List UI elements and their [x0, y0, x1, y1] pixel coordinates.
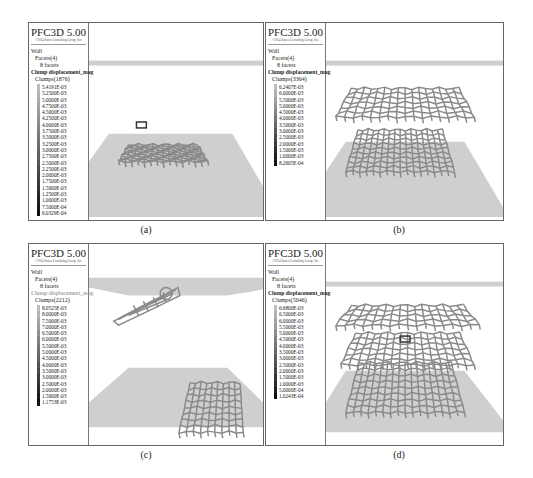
panel-c: PFC3D 5.00 ©2014 Itasca Consulting Group…	[28, 243, 264, 446]
top-wall-plane	[89, 278, 263, 296]
mesh-render-a	[89, 23, 263, 220]
facets-label: Facets(4)	[268, 276, 323, 283]
facets-sub: 8 facets	[31, 62, 86, 69]
bottom-wall-plane	[326, 371, 503, 432]
facets-label: Facets(4)	[31, 276, 86, 283]
scale-value: 6.0329E-04	[42, 210, 66, 216]
mesh-render-c	[89, 244, 263, 445]
scale-value: 1.1753E-03	[42, 399, 66, 405]
scale-entry: 1.0243E-04	[274, 393, 323, 399]
clumps-label: Clumps(3364)	[268, 76, 323, 83]
scale-entry: 6.0329E-04	[37, 210, 86, 216]
clumps-label: Clumps(2212)	[31, 297, 86, 304]
legend-title: PFC3D 5.00	[268, 247, 323, 259]
color-scale: 5.4191E-035.2500E-035.0000E-034.7500E-03…	[37, 84, 86, 216]
clumps-label: Clumps(1876)	[31, 76, 86, 83]
legend-copyright: ©2014 Itasca Consulting Group, Inc.	[31, 38, 86, 45]
mesh-render-b	[326, 23, 503, 220]
scale-value: 8.2605E-04	[279, 160, 303, 166]
contour-label: Clump displacement_mag	[31, 69, 86, 76]
legend-copyright: ©2014 Itasca Consulting Group, Inc.	[268, 259, 323, 266]
scale-swatch	[274, 160, 277, 166]
clumps-label: Clumps(5046)	[268, 297, 323, 304]
color-scale: 6.2407E-036.0000E-035.5000E-035.0000E-03…	[274, 84, 323, 166]
wall-label: Wall	[268, 48, 323, 55]
legend-d: PFC3D 5.00 ©2014 Itasca Consulting Group…	[266, 244, 326, 445]
top-wall-plane	[326, 61, 503, 66]
panel-b: PFC3D 5.00 ©2014 Itasca Consulting Group…	[265, 22, 504, 221]
scene-c	[89, 244, 263, 445]
legend-c: PFC3D 5.00 ©2014 Itasca Consulting Group…	[29, 244, 89, 445]
scale-value: 1.0243E-04	[279, 393, 303, 399]
legend-title: PFC3D 5.00	[268, 26, 323, 38]
legend-copyright: ©2014 Itasca Consulting Group, Inc.	[31, 259, 86, 266]
caption-d: (d)	[384, 449, 414, 460]
color-scale: 6.6800E-036.5000E-036.0000E-035.5000E-03…	[274, 305, 323, 399]
facets-label: Facets(4)	[268, 55, 323, 62]
caption-c: (c)	[131, 449, 161, 460]
scale-swatch	[274, 393, 277, 399]
facets-label: Facets(4)	[31, 55, 86, 62]
net-mesh-top	[336, 304, 480, 332]
facets-sub: 8 facets	[31, 283, 86, 290]
scale-swatch	[37, 210, 40, 216]
mesh-render-d	[326, 244, 503, 445]
facets-sub: 8 facets	[268, 283, 323, 290]
legend-title: PFC3D 5.00	[31, 247, 86, 259]
net-mesh-middle	[341, 332, 475, 371]
scene-a	[89, 23, 263, 220]
scene-d	[326, 244, 503, 445]
color-scale: 8.0525E-038.0000E-037.5000E-037.0000E-03…	[37, 305, 86, 406]
wall-label: Wall	[31, 269, 86, 276]
panel-d: PFC3D 5.00 ©2014 Itasca Consulting Group…	[265, 243, 504, 446]
legend-a: PFC3D 5.00 ©2014 Itasca Consulting Group…	[29, 23, 89, 220]
panel-a: PFC3D 5.00 ©2014 Itasca Consulting Group…	[28, 22, 264, 221]
facets-sub: 8 facets	[268, 62, 323, 69]
contour-label: Clump displacement_mag	[31, 290, 86, 297]
scene-b	[326, 23, 503, 220]
net-mesh-upper	[336, 87, 475, 123]
wall-label: Wall	[31, 48, 86, 55]
scale-swatch	[37, 399, 40, 405]
caption-a: (a)	[131, 224, 161, 235]
legend-title: PFC3D 5.00	[31, 26, 86, 38]
net-mesh	[119, 143, 209, 168]
scale-entry: 8.2605E-04	[274, 160, 323, 166]
legend-b: PFC3D 5.00 ©2014 Itasca Consulting Group…	[266, 23, 326, 220]
wall-label: Wall	[268, 269, 323, 276]
contour-label: Clump displacement_mag	[268, 69, 323, 76]
bottom-wall-plane	[89, 368, 263, 427]
top-wall-plane	[89, 61, 263, 66]
contour-label: Clump displacement_mag	[268, 290, 323, 297]
top-wall-plane	[326, 282, 503, 287]
caption-b: (b)	[384, 224, 414, 235]
legend-copyright: ©2014 Itasca Consulting Group, Inc.	[268, 38, 323, 45]
scale-entry: 1.1753E-03	[37, 399, 86, 405]
